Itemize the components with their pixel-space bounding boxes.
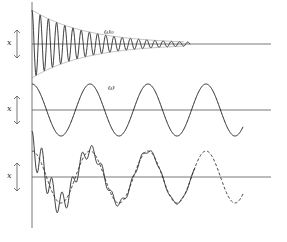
panel-1-curve-label: ω₀ xyxy=(104,28,114,36)
panel-2-axis-label: x xyxy=(7,105,12,113)
oscillation-diagram: x ω₀ x ω x xyxy=(0,0,287,242)
panel-2-amplitude-arrow-icon xyxy=(14,96,20,124)
lower-envelope xyxy=(32,46,184,78)
panel-3-amplitude-arrow-icon xyxy=(14,163,20,191)
panel-1-axis-label: x xyxy=(7,39,12,47)
plot-canvas xyxy=(0,0,287,242)
damped-oscillation-curve xyxy=(32,10,190,76)
panel-1-amplitude-arrow-icon xyxy=(14,30,20,58)
panel-3-axis-label: x xyxy=(7,172,12,180)
panel-2-curve-label: ω xyxy=(108,84,115,92)
